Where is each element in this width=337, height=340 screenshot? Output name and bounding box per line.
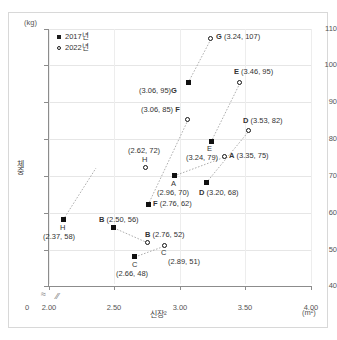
point-id-C-2017: C — [132, 261, 137, 269]
point-id-E-2022: E — [234, 67, 239, 76]
point-label-A-2022: A (3.35, 75) — [229, 152, 269, 160]
y-axis-title: 체중 — [14, 160, 25, 174]
x-tick-200: 2.00 — [37, 304, 61, 312]
point-value-E-2022: (3.46, 95) — [241, 67, 273, 76]
y-tick-40: 40 — [311, 282, 337, 290]
x-tickmark-400 — [311, 286, 312, 290]
point-value-D-2022: (3.53, 82) — [251, 116, 283, 125]
point-B-2017[interactable] — [111, 225, 116, 230]
x-tick-300: 3.00 — [168, 304, 192, 312]
point-id-B-2017: B — [99, 215, 104, 224]
point-value-A-2017: (2.96, 70) — [157, 189, 189, 197]
legend-label-2022: 2022년 — [65, 43, 89, 52]
x-tick-250: 2.50 — [102, 304, 126, 312]
point-id-H-2022: H — [142, 156, 147, 164]
x-axis-unit: (m²) — [302, 308, 316, 317]
point-label-D-2017: D (3.20, 68) — [199, 189, 239, 197]
point-value-H-2017: (2.37, 58) — [43, 233, 75, 241]
point-label-B-2017: B (2.50, 56) — [99, 216, 139, 224]
y-tick-50: 50 — [311, 246, 337, 254]
point-G-2022[interactable] — [208, 36, 213, 41]
y-tickmark-90 — [44, 102, 49, 103]
point-id-D-2017: D — [199, 188, 204, 197]
point-value-F-2022: (3.06, 85) — [141, 105, 173, 114]
y-tickmark-50 — [44, 250, 49, 251]
y-tick-110: 110 — [311, 25, 337, 33]
y-tickmark-100 — [44, 65, 49, 66]
point-F-2022[interactable] — [185, 117, 190, 122]
point-label-G-2022: G (3.24, 107) — [216, 33, 260, 41]
point-id-D-2022: D — [243, 116, 248, 125]
point-F-2017[interactable] — [146, 202, 151, 207]
point-id-F-2022: F — [175, 105, 180, 114]
point-value-B-2017: (2.50, 56) — [107, 215, 139, 224]
gridline-x-300 — [180, 29, 181, 284]
point-value-H-2022: (2.62, 72) — [128, 147, 160, 155]
point-H-2022[interactable] — [143, 165, 148, 170]
y-tickmark-80 — [44, 139, 49, 140]
open-circle-icon — [57, 46, 61, 50]
point-id-G-2022: G — [216, 32, 222, 41]
point-H-2017[interactable] — [61, 217, 66, 222]
point-id-C-2022: C — [161, 249, 166, 257]
gridline-x-250 — [114, 29, 115, 284]
legend-item-2017: 2017년 — [57, 31, 89, 42]
filled-square-icon — [57, 35, 61, 39]
point-B-2022[interactable] — [145, 240, 150, 245]
point-D-2022[interactable] — [246, 128, 251, 133]
point-label-F-2017: F (2.76, 62) — [153, 200, 192, 208]
point-G-2017[interactable] — [186, 80, 191, 85]
point-label-G-2017: (3.06, 95)G — [139, 87, 177, 95]
point-value-F-2017: (2.76, 62) — [160, 199, 192, 208]
point-value-C-2017: (2.66, 48) — [116, 270, 148, 278]
point-id-A-2022: A — [229, 151, 234, 160]
x-tickmark-350 — [245, 286, 246, 290]
point-value-A-2022: (3.35, 75) — [237, 151, 269, 160]
y-tickmark-60 — [44, 213, 49, 214]
point-id-A-2017: A — [171, 180, 176, 188]
y-tickmark-110 — [44, 29, 49, 30]
point-D-2017[interactable] — [204, 180, 209, 185]
y-axis-unit: (kg) — [24, 18, 37, 27]
legend-label-2017: 2017년 — [65, 32, 89, 41]
gridline-x-200 — [49, 29, 50, 284]
y-tick-100: 100 — [311, 61, 337, 69]
point-value-G-2017: (3.06, 95) — [139, 86, 171, 95]
x-tickmark-200 — [49, 286, 50, 290]
x-tickmark-250 — [114, 286, 115, 290]
point-A-2022[interactable] — [222, 154, 227, 159]
point-label-B-2022: B (2.76, 52) — [145, 231, 185, 239]
point-value-B-2022: (2.76, 52) — [153, 230, 185, 239]
point-label-D-2022: D (3.53, 82) — [243, 117, 283, 125]
y-tickmark-70 — [44, 176, 49, 177]
point-A-2017[interactable] — [172, 173, 177, 178]
point-id-G-2017: G — [171, 86, 177, 95]
point-label-F-2022: (3.06, 85) F — [141, 106, 180, 114]
point-id-B-2022: B — [145, 230, 150, 239]
point-id-H-2017: H — [60, 224, 65, 232]
y-axis-line — [48, 29, 49, 287]
y-tick-70: 70 — [311, 172, 337, 180]
point-label-E-2022: E (3.46, 95) — [234, 68, 273, 76]
y-tick-60: 60 — [311, 209, 337, 217]
point-value-E-2017: (3.24, 79) — [186, 154, 218, 162]
point-E-2022[interactable] — [237, 80, 242, 85]
x-tick-350: 3.50 — [233, 304, 257, 312]
point-value-G-2022: (3.24, 107) — [224, 32, 260, 41]
point-id-F-2017: F — [153, 199, 158, 208]
chart-frame — [8, 12, 328, 328]
y-axis-break-icon: ≈ — [41, 291, 46, 298]
y-tick-90: 90 — [311, 98, 337, 106]
x-axis-title: 신장² — [150, 308, 167, 319]
point-C-2017[interactable] — [132, 254, 137, 259]
y-tick-80: 80 — [311, 135, 337, 143]
point-value-D-2017: (3.20, 68) — [207, 188, 239, 197]
point-id-E-2017: E — [207, 145, 212, 153]
legend-item-2022: 2022년 — [57, 42, 89, 53]
legend: 2017년 2022년 — [57, 31, 89, 53]
point-value-C-2022: (2.89, 51) — [168, 258, 200, 266]
x-tick-0: 0 — [18, 304, 36, 312]
x-axis-break-icon: ⁄⁄ — [56, 293, 59, 300]
x-tickmark-300 — [180, 286, 181, 290]
chart-screenshot: 110 100 90 80 70 60 50 40 0 2.00 2.50 3.… — [0, 0, 337, 340]
